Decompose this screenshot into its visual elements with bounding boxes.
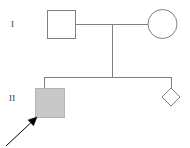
generation-label-i: I: [11, 20, 14, 29]
father-square-symbol[interactable]: [48, 11, 76, 39]
proband-arrow-shaft: [6, 123, 31, 146]
pedigree-diagram-canvas: [0, 0, 190, 148]
unknown-sex-diamond-symbol[interactable]: [162, 88, 180, 106]
pedigree-chart: I II: [0, 0, 190, 148]
mother-circle-symbol[interactable]: [148, 10, 177, 39]
proband-affected-square-symbol[interactable]: [36, 89, 65, 118]
generation-label-ii: II: [9, 94, 15, 103]
proband-arrow: [6, 117, 37, 146]
generation-ii-symbols: [36, 88, 181, 118]
